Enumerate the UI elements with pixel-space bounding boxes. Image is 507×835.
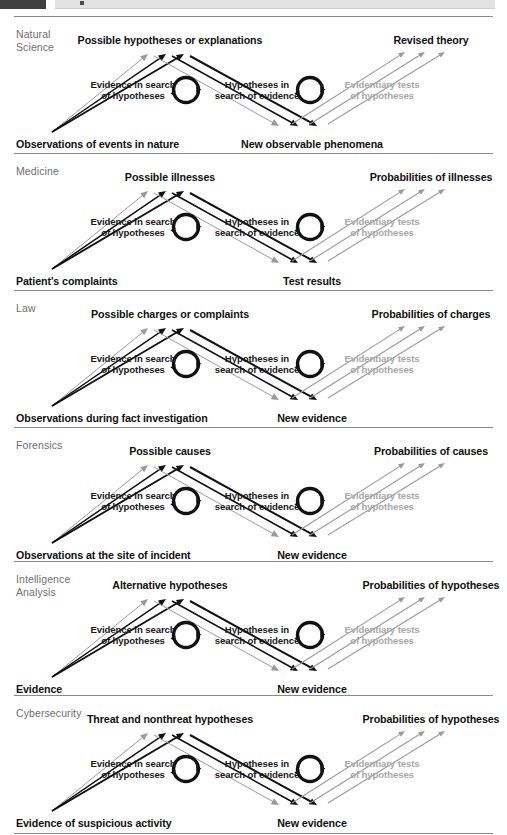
row-divider: [14, 695, 493, 696]
process-label-left-2: Evidence in search of hypotheses: [90, 353, 175, 375]
process-label-middle-0: Hypotheses in search of evidence: [215, 79, 300, 101]
process-label-left-1: Evidence in search of hypotheses: [90, 216, 175, 238]
top-left-label-4: Alternative hypotheses: [112, 579, 227, 591]
process-label-middle-5: Hypotheses in search of evidence: [215, 758, 300, 780]
top-right-label-4: Probabilities of hypotheses: [363, 579, 500, 591]
process-label-left-5: Evidence in search of hypotheses: [90, 758, 175, 780]
top-left-label-5: Threat and nonthreat hypotheses: [87, 713, 253, 725]
top-right-label-2: Probabilities of charges: [372, 308, 491, 320]
discipline-row: Natural SciencePossible hypotheses or ex…: [0, 10, 507, 147]
row-divider-bottom: [14, 833, 493, 834]
row-divider: [14, 290, 493, 291]
discipline-row: LawPossible charges or complaintsProbabi…: [0, 284, 507, 421]
row-divider: [14, 427, 493, 428]
process-label-middle-1: Hypotheses in search of evidence: [215, 216, 300, 238]
chrome-toolbar-strip: [55, 0, 495, 9]
top-left-label-1: Possible illnesses: [125, 171, 215, 183]
top-right-label-5: Probabilities of hypotheses: [363, 713, 500, 725]
top-right-label-3: Probabilities of causes: [374, 445, 488, 457]
discipline-label-5: Cybersecurity: [16, 707, 81, 720]
process-label-middle-4: Hypotheses in search of evidence: [215, 624, 300, 646]
top-left-label-3: Possible causes: [129, 445, 211, 457]
discipline-label-2: Law: [16, 302, 36, 315]
discipline-row: MedicinePossible illnessesProbabilities …: [0, 147, 507, 284]
row-divider: [14, 561, 493, 562]
process-label-right-1: Evidentiary tests of hypotheses: [344, 216, 419, 238]
discipline-row: Intelligence AnalysisAlternative hypothe…: [0, 555, 507, 689]
bottom-right-label-5: New evidence: [277, 817, 347, 829]
discipline-label-4: Intelligence Analysis: [16, 573, 70, 598]
discipline-row: ForensicsPossible causesProbabilities of…: [0, 421, 507, 555]
process-label-right-0: Evidentiary tests of hypotheses: [344, 79, 419, 101]
discipline-label-0: Natural Science: [16, 28, 54, 53]
row-divider: [14, 153, 493, 154]
chrome-dark-chip: [0, 0, 46, 9]
discipline-row: CybersecurityThreat and nonthreat hypoth…: [0, 689, 507, 835]
process-label-middle-2: Hypotheses in search of evidence: [215, 353, 300, 375]
top-left-label-0: Possible hypotheses or explanations: [78, 34, 263, 46]
row-divider: [14, 16, 493, 17]
arrow-layer: [0, 555, 507, 689]
top-right-label-0: Revised theory: [393, 34, 468, 46]
discipline-label-1: Medicine: [16, 165, 59, 178]
discipline-label-3: Forensics: [16, 439, 62, 452]
browser-chrome-strip: [0, 0, 507, 10]
process-label-right-3: Evidentiary tests of hypotheses: [344, 490, 419, 512]
process-label-middle-3: Hypotheses in search of evidence: [215, 490, 300, 512]
discovery-process-figure: Natural SciencePossible hypotheses or ex…: [0, 10, 507, 835]
process-label-left-0: Evidence in search of hypotheses: [90, 79, 175, 101]
process-label-right-2: Evidentiary tests of hypotheses: [344, 353, 419, 375]
chrome-toolbar-dot-icon: [80, 1, 84, 5]
process-label-left-4: Evidence in search of hypotheses: [90, 624, 175, 646]
process-label-right-4: Evidentiary tests of hypotheses: [344, 624, 419, 646]
bottom-left-label-5: Evidence of suspicious activity: [16, 817, 172, 829]
arrow-layer: [0, 421, 507, 555]
top-right-label-1: Probabilities of illnesses: [370, 171, 493, 183]
process-label-right-5: Evidentiary tests of hypotheses: [344, 758, 419, 780]
process-label-left-3: Evidence in search of hypotheses: [90, 490, 175, 512]
top-left-label-2: Possible charges or complaints: [91, 308, 249, 320]
